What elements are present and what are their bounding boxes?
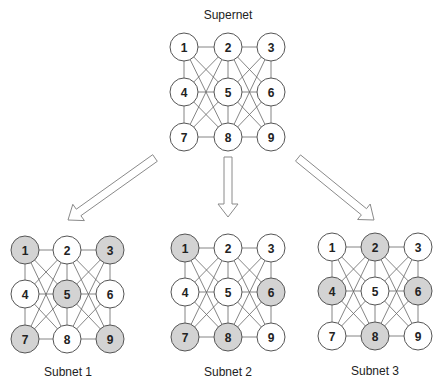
node-9: 9 xyxy=(257,123,285,151)
subnet-1-title: Subnet 1 xyxy=(44,365,92,379)
node-label: 6 xyxy=(268,86,275,100)
node-1: 1 xyxy=(318,233,346,261)
node-label: 9 xyxy=(415,330,422,344)
node-label: 4 xyxy=(181,86,188,100)
node-8-selected: 8 xyxy=(214,323,242,351)
node-6-selected: 6 xyxy=(404,277,432,305)
node-label: 4 xyxy=(329,285,336,299)
node-label: 5 xyxy=(372,285,379,299)
node-5: 5 xyxy=(214,278,242,306)
node-9: 9 xyxy=(257,323,285,351)
node-4: 4 xyxy=(170,78,198,106)
node-8: 8 xyxy=(214,123,242,151)
node-2: 2 xyxy=(214,33,242,61)
node-label: 9 xyxy=(268,331,275,345)
node-label: 2 xyxy=(225,242,232,256)
networks: 123456789Supernet123456789Subnet 1123456… xyxy=(11,8,432,379)
node-label: 2 xyxy=(372,241,379,255)
node-5: 5 xyxy=(361,277,389,305)
node-2: 2 xyxy=(53,236,81,264)
node-label: 3 xyxy=(268,41,275,55)
node-5: 5 xyxy=(214,78,242,106)
node-label: 1 xyxy=(181,41,188,55)
node-7: 7 xyxy=(170,123,198,151)
node-label: 3 xyxy=(268,242,275,256)
node-label: 6 xyxy=(415,285,422,299)
node-label: 9 xyxy=(107,333,114,347)
supernet-diagram: 123456789Supernet123456789Subnet 1123456… xyxy=(0,0,444,388)
subnet-3: 123456789Subnet 3 xyxy=(318,233,432,378)
node-label: 1 xyxy=(22,244,29,258)
node-label: 2 xyxy=(64,244,71,258)
arrow-to-subnet-1-icon xyxy=(68,155,157,221)
node-1: 1 xyxy=(170,33,198,61)
node-8-selected: 8 xyxy=(361,322,389,350)
node-1-selected: 1 xyxy=(11,236,39,264)
subnet-3-title: Subnet 3 xyxy=(351,364,399,378)
node-label: 7 xyxy=(181,131,188,145)
node-9: 9 xyxy=(404,322,432,350)
node-label: 4 xyxy=(22,288,29,302)
node-label: 1 xyxy=(329,241,336,255)
node-label: 4 xyxy=(182,286,189,300)
node-label: 7 xyxy=(329,330,336,344)
node-label: 8 xyxy=(64,333,71,347)
node-7-selected: 7 xyxy=(171,323,199,351)
node-label: 7 xyxy=(182,331,189,345)
node-3-selected: 3 xyxy=(96,236,124,264)
node-9-selected: 9 xyxy=(96,325,124,353)
node-2-selected: 2 xyxy=(361,233,389,261)
node-label: 8 xyxy=(372,330,379,344)
node-7-selected: 7 xyxy=(11,325,39,353)
node-1-selected: 1 xyxy=(171,234,199,262)
node-6-selected: 6 xyxy=(257,278,285,306)
node-label: 8 xyxy=(225,331,232,345)
node-label: 2 xyxy=(225,41,232,55)
node-label: 8 xyxy=(225,131,232,145)
node-3: 3 xyxy=(404,233,432,261)
subnet-2: 123456789Subnet 2 xyxy=(171,234,285,379)
node-2: 2 xyxy=(214,234,242,262)
node-label: 5 xyxy=(225,86,232,100)
node-7: 7 xyxy=(318,322,346,350)
supernet-title: Supernet xyxy=(204,8,253,22)
node-4: 4 xyxy=(171,278,199,306)
arrows xyxy=(68,155,374,221)
node-6: 6 xyxy=(257,78,285,106)
node-label: 3 xyxy=(107,244,114,258)
node-label: 5 xyxy=(225,286,232,300)
supernet: 123456789Supernet xyxy=(170,8,285,151)
node-label: 7 xyxy=(22,333,29,347)
node-4: 4 xyxy=(11,280,39,308)
node-label: 1 xyxy=(182,242,189,256)
node-4-selected: 4 xyxy=(318,277,346,305)
node-label: 3 xyxy=(415,241,422,255)
node-label: 6 xyxy=(107,288,114,302)
node-5-selected: 5 xyxy=(53,280,81,308)
node-label: 5 xyxy=(64,288,71,302)
node-8: 8 xyxy=(53,325,81,353)
subnet-2-title: Subnet 2 xyxy=(204,365,252,379)
node-3: 3 xyxy=(257,234,285,262)
arrow-to-subnet-3-icon xyxy=(296,155,375,220)
node-6: 6 xyxy=(96,280,124,308)
arrow-to-subnet-2-icon xyxy=(218,157,238,217)
subnet-1: 123456789Subnet 1 xyxy=(11,236,124,379)
node-3: 3 xyxy=(257,33,285,61)
node-label: 6 xyxy=(268,286,275,300)
node-label: 9 xyxy=(268,131,275,145)
